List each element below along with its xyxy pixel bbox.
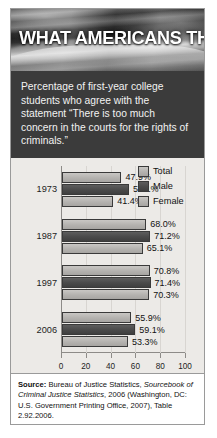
- bar-value-label: 68.0%: [146, 219, 176, 229]
- bar-total: [62, 219, 146, 230]
- axis-tick-label: 0: [59, 362, 64, 371]
- legend-label-male: Male: [153, 181, 173, 191]
- source-label: Source:: [18, 380, 46, 389]
- banner-header: WHAT AMERICANS THINK: [11, 9, 204, 71]
- bar-female: [62, 289, 149, 300]
- legend-swatch-total-icon: [138, 166, 149, 177]
- bar-value-label: 70.8%: [150, 266, 180, 276]
- legend-item-total: Total: [138, 166, 196, 177]
- bar-value-label: 70.3%: [149, 290, 179, 300]
- bar-group: 200655.9%59.1%53.3%: [17, 306, 198, 353]
- bar-male: [62, 231, 150, 242]
- legend-item-male: Male: [138, 181, 196, 192]
- axis-tick-label: 20: [81, 362, 90, 371]
- bar-male: [62, 324, 135, 335]
- axis-tick: [160, 353, 161, 358]
- axis-tick: [61, 353, 62, 358]
- legend-swatch-male-icon: [138, 181, 149, 192]
- legend-label-total: Total: [153, 166, 172, 176]
- source-part-one: Bureau of Justice Statistics,: [46, 380, 144, 389]
- axis-tick-label: 100: [178, 362, 192, 371]
- chart-subtitle: Percentage of first-year college student…: [11, 71, 204, 158]
- bar-group: 199770.8%71.4%70.3%: [17, 259, 198, 306]
- bar-male: [62, 277, 151, 288]
- bar-value-label: 71.4%: [151, 278, 181, 288]
- legend-item-female: Female: [138, 196, 196, 207]
- banner-title: WHAT AMERICANS THINK: [19, 27, 189, 48]
- bar-total: [62, 312, 131, 323]
- axis-tick-label: 40: [106, 362, 115, 371]
- bar-male: [62, 184, 129, 195]
- axis-tick: [86, 353, 87, 358]
- axis-tick: [185, 353, 186, 358]
- category-label: 1987: [17, 231, 57, 241]
- axis-tick-label: 60: [131, 362, 140, 371]
- bar-total: [62, 172, 121, 183]
- bar-value-label: 59.1%: [135, 325, 165, 335]
- chart-area: 020406080100 197347.9%54.1%41.4%198768.0…: [11, 158, 204, 373]
- category-label: 1973: [17, 184, 57, 194]
- category-label: 2006: [17, 325, 57, 335]
- plot-region: 020406080100 197347.9%54.1%41.4%198768.0…: [17, 164, 198, 371]
- bar-value-label: 71.2%: [150, 231, 180, 241]
- bar-female: [62, 336, 128, 347]
- bar-value-label: 55.9%: [131, 313, 161, 323]
- bar-total: [62, 265, 150, 276]
- legend-swatch-female-icon: [138, 196, 149, 207]
- bar-value-label: 53.3%: [128, 337, 158, 347]
- what-americans-think-figure: WHAT AMERICANS THINK Percentage of first…: [10, 8, 205, 425]
- bar-group: 198768.0%71.2%65.1%: [17, 213, 198, 260]
- bar-female: [62, 196, 113, 207]
- chart-legend: Total Male Female: [138, 166, 196, 211]
- axis-tick-label: 80: [156, 362, 165, 371]
- axis-tick: [111, 353, 112, 358]
- bar-value-label: 65.1%: [143, 243, 173, 253]
- bar-female: [62, 243, 143, 254]
- legend-label-female: Female: [153, 196, 184, 206]
- category-label: 1997: [17, 278, 57, 288]
- axis-tick: [135, 353, 136, 358]
- source-note: Source: Bureau of Justice Statistics, So…: [11, 373, 204, 425]
